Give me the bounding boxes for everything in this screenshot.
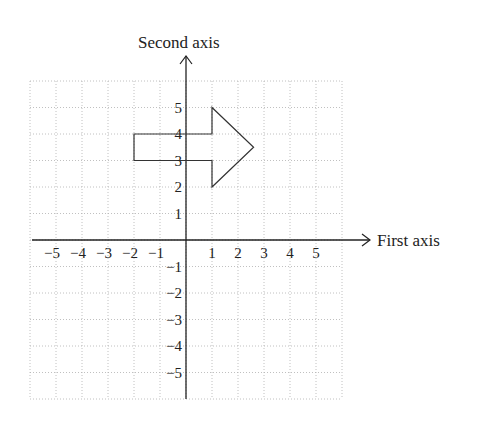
x-tick-label: 4: [286, 245, 294, 261]
x-tick-label: 2: [234, 245, 242, 261]
x-tick-label: 1: [208, 245, 216, 261]
x-tick-label: −5: [44, 245, 60, 261]
y-tick-label: 2: [175, 179, 183, 195]
x-tick-label: −3: [96, 245, 112, 261]
y-tick-label: 5: [175, 100, 183, 116]
y-tick-label: −1: [166, 259, 182, 275]
y-tick-label: 4: [175, 126, 183, 142]
y-tick-label: 3: [175, 153, 183, 169]
x-tick-label: −4: [70, 245, 86, 261]
arrow-shape: [134, 108, 254, 188]
y-tick-label: −5: [166, 365, 182, 381]
x-axis-label: First axis: [377, 231, 440, 250]
y-tick-label: −4: [166, 338, 182, 354]
y-tick-label: 1: [175, 206, 183, 222]
x-tick-label: −2: [122, 245, 138, 261]
y-tick-label: −2: [166, 285, 182, 301]
coordinate-plane: −5−4−3−2−11234554321−1−2−3−4−5 Second ax…: [0, 0, 480, 424]
x-tick-label: 3: [260, 245, 268, 261]
x-tick-label: −1: [148, 245, 164, 261]
y-axis-label: Second axis: [138, 33, 220, 52]
y-tick-label: −3: [166, 312, 182, 328]
x-tick-label: 5: [312, 245, 320, 261]
